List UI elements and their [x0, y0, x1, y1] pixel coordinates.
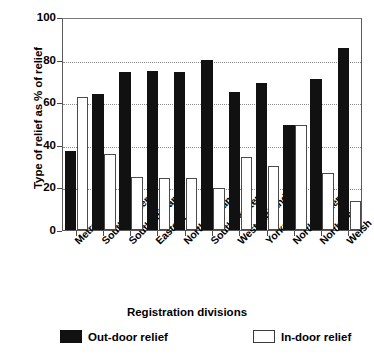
x-axis-title: Registration divisions [0, 306, 374, 318]
y-tick-label: 40 [18, 140, 56, 152]
bar-outdoor-relief [92, 94, 104, 230]
chart-legend: Out-door relief In-door relief [0, 330, 374, 352]
bar-indoor-relief [186, 178, 198, 230]
y-tick-mark [57, 231, 62, 232]
legend-label-indoor-relief: In-door relief [281, 331, 351, 343]
bar-indoor-relief [104, 154, 116, 230]
plot-area [62, 18, 362, 231]
bar-group [92, 19, 116, 230]
bar-group [147, 19, 171, 230]
bar-indoor-relief [322, 173, 334, 231]
legend-item-indoor-relief: In-door relief [253, 330, 351, 343]
bar-indoor-relief [77, 97, 89, 230]
y-tick-label: 80 [18, 55, 56, 67]
legend-label-outdoor-relief: Out-door relief [88, 331, 168, 343]
bar-group [174, 19, 198, 230]
bar-indoor-relief [268, 166, 280, 230]
bar-outdoor-relief [256, 83, 268, 230]
y-tick-label: 20 [18, 183, 56, 195]
y-tick-label: 0 [18, 225, 56, 237]
legend-swatch-indoor-relief [253, 330, 275, 343]
y-tick-label: 60 [18, 97, 56, 109]
bar-outdoor-relief [201, 60, 213, 230]
bar-group [65, 19, 89, 230]
bar-outdoor-relief [338, 48, 350, 230]
bar-outdoor-relief [147, 71, 159, 230]
bar-outdoor-relief [229, 92, 241, 230]
bar-indoor-relief [159, 178, 171, 230]
bar-outdoor-relief [283, 125, 295, 230]
bar-group [229, 19, 253, 230]
bar-indoor-relief [241, 157, 253, 230]
bar-outdoor-relief [65, 151, 77, 230]
bar-group [201, 19, 225, 230]
bar-outdoor-relief [310, 79, 322, 230]
bar-series-container [63, 19, 361, 230]
bar-group [338, 19, 362, 230]
legend-swatch-outdoor-relief [60, 330, 82, 343]
bar-indoor-relief [350, 201, 362, 230]
bar-outdoor-relief [174, 72, 186, 230]
bar-group [119, 19, 143, 230]
bar-indoor-relief [213, 188, 225, 230]
chart-figure: Type of relief as % of relief 0204060801… [0, 0, 374, 359]
bar-outdoor-relief [119, 72, 131, 230]
bar-indoor-relief [295, 125, 307, 230]
bar-group [256, 19, 280, 230]
legend-item-outdoor-relief: Out-door relief [60, 330, 168, 343]
y-tick-label: 100 [18, 12, 56, 24]
bar-group [283, 19, 307, 230]
bar-group [310, 19, 334, 230]
bar-indoor-relief [131, 177, 143, 230]
